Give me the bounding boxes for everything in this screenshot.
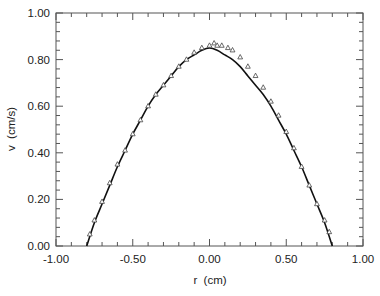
triangle-marker-icon xyxy=(253,73,258,77)
x-tick-label: 0.00 xyxy=(198,253,220,265)
x-tick-label: -1.00 xyxy=(43,253,69,265)
y-tick-label: 0.80 xyxy=(28,54,50,66)
triangle-marker-icon xyxy=(219,43,224,47)
triangle-marker-icon xyxy=(199,45,204,49)
y-tick-label: 0.40 xyxy=(28,147,50,159)
triangle-marker-icon xyxy=(261,85,266,89)
model-curve-line xyxy=(87,48,333,246)
x-axis-title: r (cm) xyxy=(193,274,226,286)
triangle-marker-icon xyxy=(238,55,243,59)
x-tick-label: -0.50 xyxy=(120,253,146,265)
x-tick-label: 1.00 xyxy=(352,253,374,265)
y-tick-label: 0.20 xyxy=(28,193,50,205)
y-tick-label: 0.60 xyxy=(28,100,50,112)
y-tick-label: 1.00 xyxy=(28,7,50,19)
x-tick-labels: -1.00-0.500.000.501.00 xyxy=(43,253,374,265)
x-tick-label: 0.50 xyxy=(275,253,297,265)
triangle-marker-icon xyxy=(192,50,197,54)
triangle-marker-icon xyxy=(226,45,231,49)
data-markers xyxy=(87,41,331,236)
triangle-marker-icon xyxy=(212,41,217,45)
velocity-profile-chart: -1.00-0.500.000.501.00 0.000.200.400.600… xyxy=(0,0,380,296)
y-axis-title: v (cm/s) xyxy=(5,107,17,151)
y-tick-label: 0.00 xyxy=(28,240,50,252)
triangle-marker-icon xyxy=(245,64,250,68)
triangle-marker-icon xyxy=(269,99,274,103)
triangle-marker-icon xyxy=(276,113,281,117)
y-tick-labels: 0.000.200.400.600.801.00 xyxy=(28,7,50,252)
